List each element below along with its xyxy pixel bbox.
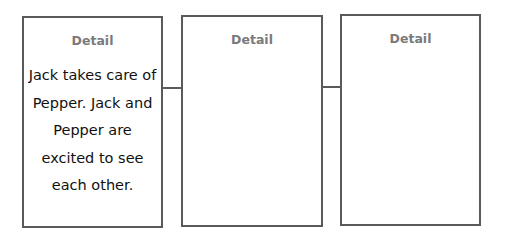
- connector-line: [323, 86, 340, 88]
- detail-box-3: Detail: [340, 14, 481, 226]
- detail-box-title: Detail: [183, 32, 321, 47]
- detail-box-title: Detail: [342, 31, 479, 46]
- detail-box-title: Detail: [24, 33, 161, 48]
- detail-box-1: Detail Jack takes care of Pepper. Jack a…: [22, 16, 163, 228]
- detail-box-2: Detail: [181, 15, 323, 227]
- connector-line: [163, 87, 181, 89]
- detail-box-text: Jack takes care of Pepper. Jack and Pepp…: [28, 62, 157, 200]
